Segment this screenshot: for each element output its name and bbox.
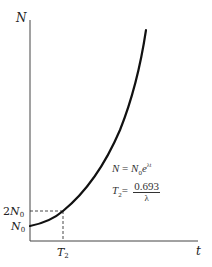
- n0-label: N0: [10, 220, 25, 234]
- doubling-time-equation: T2= 0.693 λ: [112, 180, 160, 203]
- doubling-time-fraction: 0.693 λ: [133, 180, 160, 203]
- x-axis-label: t: [196, 244, 201, 258]
- growth-equation: N = N0eλt: [112, 162, 151, 177]
- exponential-growth-chart: N t 2N0 N0 T2 N = N0eλt T2= 0.693 λ: [0, 0, 212, 267]
- t2-label: T2: [57, 246, 69, 260]
- y-axis-label: N: [15, 11, 27, 25]
- 2n0-label: 2N0: [3, 205, 24, 219]
- chart-canvas: N t 2N0 N0 T2: [0, 0, 212, 267]
